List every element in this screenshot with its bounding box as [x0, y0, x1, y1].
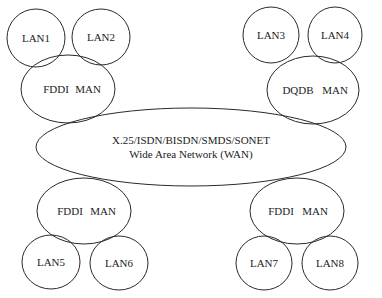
- man-top-left-type: FDDI: [43, 83, 69, 95]
- lan6-node: LAN6: [90, 236, 148, 290]
- man-top-right-type: DQDB: [282, 84, 313, 96]
- lan1-node: LAN1: [7, 9, 65, 67]
- wan-technologies-label: X.25/ISDN/BISDN/SMDS/SONET: [112, 134, 270, 146]
- lan6-label: LAN6: [105, 257, 134, 269]
- lan5-node: LAN5: [22, 235, 80, 289]
- man-bottom-left-type: FDDI: [57, 205, 83, 217]
- man-bottom-left-node: FDDI MAN: [37, 178, 131, 244]
- lan4-node: LAN4: [308, 7, 362, 63]
- network-diagram: LAN1 LAN2 FDDI MAN LAN3 LAN4 DQDB MAN X.…: [0, 0, 382, 298]
- wan-name-label: Wide Area Network (WAN): [129, 148, 253, 161]
- lan7-node: LAN7: [236, 236, 292, 290]
- lan1-label: LAN1: [22, 32, 50, 44]
- lan3-node: LAN3: [243, 7, 299, 63]
- man-top-left-label: MAN: [75, 83, 101, 95]
- lan3-label: LAN3: [257, 29, 286, 41]
- man-top-left-node: FDDI MAN: [21, 55, 115, 123]
- lan8-node: LAN8: [302, 236, 358, 290]
- man-bottom-right-type: FDDI: [268, 205, 294, 217]
- lan2-label: LAN2: [87, 31, 115, 43]
- man-top-right-label: MAN: [322, 84, 348, 96]
- man-bottom-right-node: FDDI MAN: [250, 178, 344, 244]
- lan4-label: LAN4: [321, 29, 350, 41]
- man-bottom-left-label: MAN: [90, 205, 116, 217]
- lan7-label: LAN7: [250, 257, 279, 269]
- man-bottom-right-label: MAN: [302, 205, 328, 217]
- lan8-label: LAN8: [316, 257, 345, 269]
- man-top-right-node: DQDB MAN: [267, 56, 359, 124]
- lan5-label: LAN5: [37, 256, 66, 268]
- wan-node: X.25/ISDN/BISDN/SMDS/SONET Wide Area Net…: [36, 108, 346, 186]
